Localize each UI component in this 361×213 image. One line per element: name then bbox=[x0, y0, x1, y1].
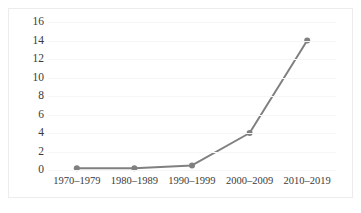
y-axis-tick-label: 14 bbox=[10, 35, 44, 47]
chart-screenshot: 0246810121416 1970–1979: 0.21980–1989: 0… bbox=[0, 0, 361, 213]
y-axis-tick-label: 2 bbox=[10, 146, 44, 158]
y-axis-tick-label: 12 bbox=[10, 53, 44, 65]
gridline bbox=[48, 41, 336, 42]
y-axis-tick-label: 4 bbox=[10, 127, 44, 139]
y-axis: 0246810121416 bbox=[6, 22, 44, 170]
gridline bbox=[48, 59, 336, 60]
x-axis: 1970–19791980–19891990–19992000–20092010… bbox=[48, 176, 336, 192]
x-axis-tick-label: 2010–2019 bbox=[278, 176, 336, 192]
y-axis-tick-label: 6 bbox=[10, 109, 44, 121]
x-axis-tick-label: 2000–2009 bbox=[221, 176, 279, 192]
x-axis-tick-label: 1970–1979 bbox=[48, 176, 106, 192]
gridline bbox=[48, 115, 336, 116]
y-axis-tick-label: 16 bbox=[10, 16, 44, 28]
plot-area: 1970–1979: 0.21980–1989: 0.21990–1999: 0… bbox=[48, 22, 336, 170]
x-axis-tick-label: 1990–1999 bbox=[163, 176, 221, 192]
x-axis-tick-label: 1980–1989 bbox=[106, 176, 164, 192]
y-axis-tick-label: 10 bbox=[10, 72, 44, 84]
gridline bbox=[48, 22, 336, 23]
gridline bbox=[48, 133, 336, 134]
data-point-marker: 1990–1999: 0.5 bbox=[189, 162, 195, 168]
y-axis-tick-label: 8 bbox=[10, 90, 44, 102]
y-axis-tick-label: 0 bbox=[10, 164, 44, 176]
gridline bbox=[48, 170, 336, 171]
gridline bbox=[48, 152, 336, 153]
gridline bbox=[48, 96, 336, 97]
gridline bbox=[48, 78, 336, 79]
